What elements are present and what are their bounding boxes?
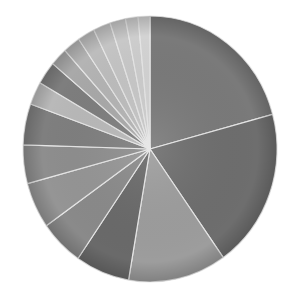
pie-slices	[23, 16, 277, 282]
pie-chart	[0, 0, 297, 299]
